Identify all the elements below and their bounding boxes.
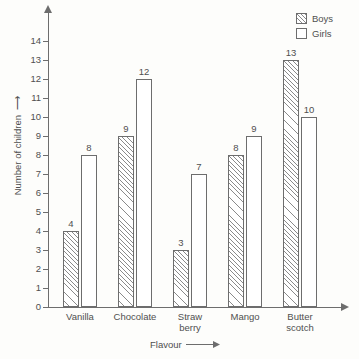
empty-square-icon <box>296 28 307 39</box>
bar-boys-mango <box>228 155 244 307</box>
legend-label: Girls <box>312 29 332 39</box>
y-axis-tick <box>43 307 48 308</box>
y-axis-tick <box>43 41 48 42</box>
y-axis-tick <box>43 60 48 61</box>
bar-girls-chocolate <box>136 79 152 307</box>
y-axis-tick-label: 0 <box>15 302 41 312</box>
y-axis-tick-label: 1 <box>15 283 41 293</box>
y-axis-tick <box>43 98 48 99</box>
y-axis-arrowhead-icon <box>44 5 52 13</box>
bar-value-label: 13 <box>278 48 304 58</box>
bar-girls-straw-berry <box>191 174 207 307</box>
y-axis-tick <box>43 117 48 118</box>
hatched-square-icon <box>296 13 307 24</box>
x-axis-label-straw-berry: Straw berry <box>162 311 218 333</box>
y-axis-line <box>48 12 49 308</box>
y-axis-tick-label: 5 <box>15 207 41 217</box>
y-axis-tick <box>43 155 48 156</box>
x-axis-label-mango: Mango <box>217 311 273 322</box>
x-axis-arrowhead-icon <box>341 303 349 311</box>
bar-girls-butter-scotch <box>301 117 317 307</box>
bar-value-label: 8 <box>76 143 102 153</box>
y-axis-title-text: Number of children <box>12 115 23 195</box>
y-axis-tick <box>43 79 48 80</box>
bar-value-label: 12 <box>131 67 157 77</box>
bar-boys-chocolate <box>118 136 134 307</box>
bar-chart: 01234567891011121314 Number of children … <box>0 0 359 359</box>
bar-girls-vanilla <box>81 155 97 307</box>
y-axis-tick-label: 3 <box>15 245 41 255</box>
y-axis-tick <box>43 288 48 289</box>
x-axis-title: Flavour <box>150 339 220 350</box>
y-axis-tick-label: 14 <box>15 36 41 46</box>
x-axis-label-vanilla: Vanilla <box>52 311 108 322</box>
y-axis-tick <box>43 212 48 213</box>
x-axis-label-chocolate: Chocolate <box>107 311 163 322</box>
y-axis-tick <box>43 231 48 232</box>
y-axis-tick <box>43 269 48 270</box>
bar-value-label: 10 <box>296 105 322 115</box>
y-axis-tick <box>43 174 48 175</box>
y-axis-tick-label: 2 <box>15 264 41 274</box>
y-axis-tick-label: 12 <box>15 74 41 84</box>
y-axis-tick <box>43 193 48 194</box>
bar-value-label: 7 <box>186 162 212 172</box>
x-axis-title-arrow-icon <box>186 340 220 349</box>
bar-boys-butter-scotch <box>283 60 299 307</box>
x-axis-line <box>48 307 342 308</box>
x-axis-title-text: Flavour <box>150 339 182 350</box>
bar-boys-vanilla <box>63 231 79 307</box>
y-axis-tick <box>43 250 48 251</box>
legend-item-girls: Girls <box>296 28 333 39</box>
y-axis-tick-label: 13 <box>15 55 41 65</box>
y-axis-title: Number of children ⟶ <box>12 86 23 206</box>
y-axis-tick <box>43 136 48 137</box>
y-axis-title-arrow-icon: ⟶ <box>12 96 23 113</box>
bar-girls-mango <box>246 136 262 307</box>
legend-label: Boys <box>312 14 333 24</box>
bar-boys-straw-berry <box>173 250 189 307</box>
x-axis-label-butter-scotch: Butter scotch <box>272 311 328 333</box>
legend-item-boys: Boys <box>296 13 333 24</box>
legend: BoysGirls <box>296 13 333 39</box>
bar-value-label: 9 <box>241 124 267 134</box>
y-axis-tick-label: 4 <box>15 226 41 236</box>
